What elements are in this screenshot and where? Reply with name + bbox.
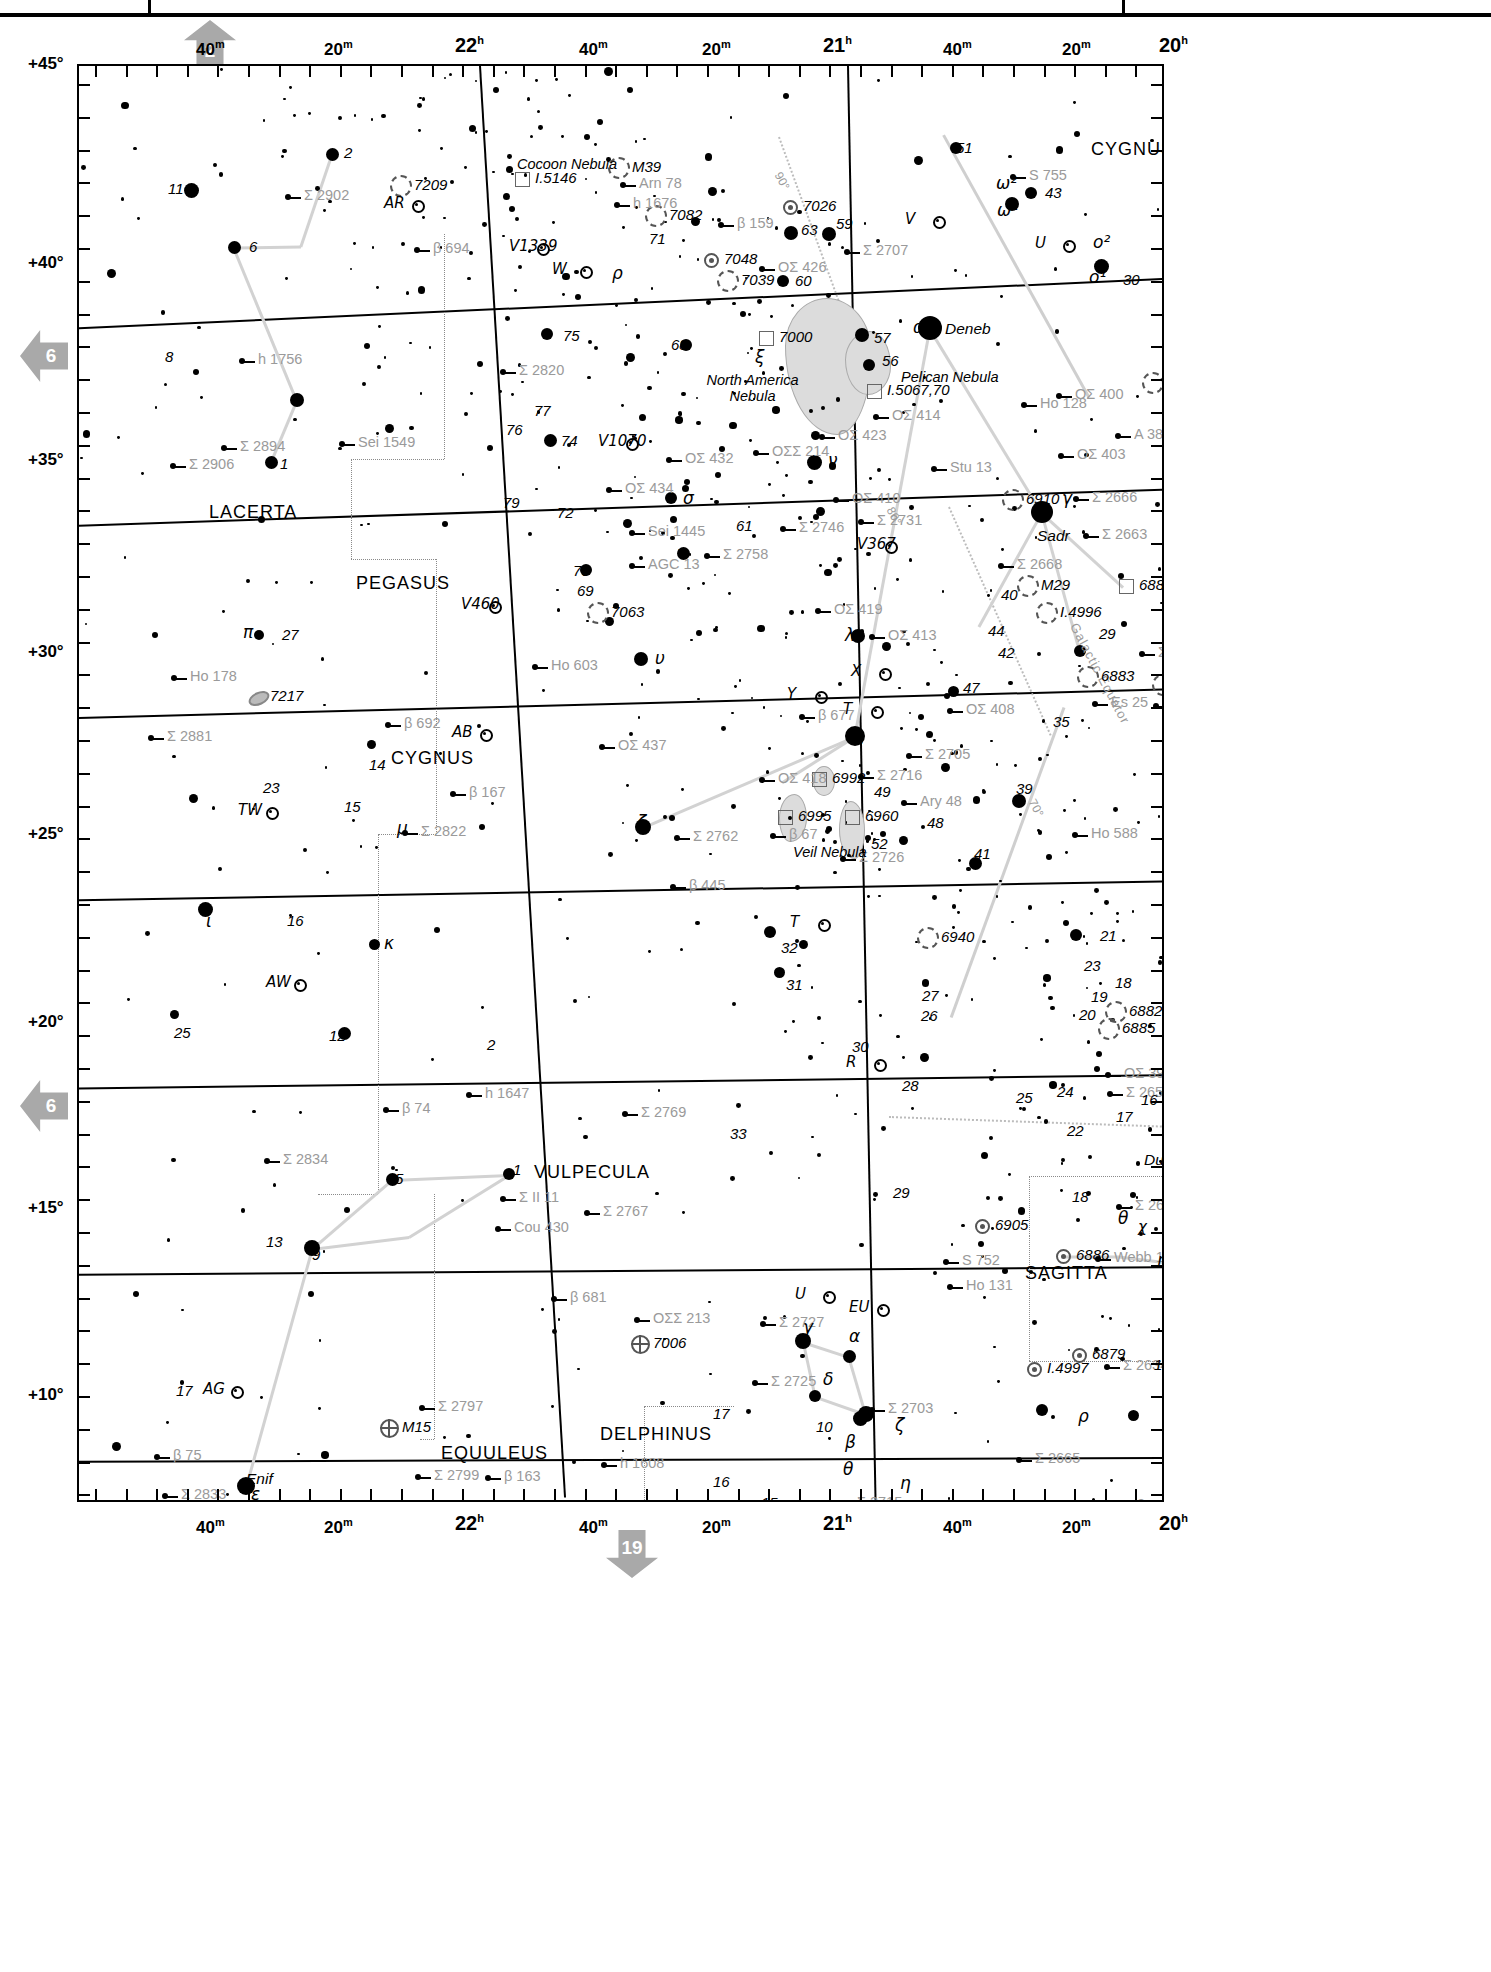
background-star <box>954 269 957 272</box>
background-star <box>318 1407 321 1410</box>
background-star <box>293 114 296 117</box>
dec-tick-left <box>79 379 90 381</box>
background-star <box>621 404 624 407</box>
double-star-label: Ho 603 <box>551 657 598 673</box>
constellation-boundary-segment <box>351 559 436 560</box>
background-star <box>354 114 357 117</box>
flamsteed-label: 71 <box>649 230 666 247</box>
dso-label: M15 <box>402 1418 431 1435</box>
background-star <box>933 1271 937 1275</box>
sky-chart-plot[interactable]: Galactic Equator90°80°70°7209I.5146M3970… <box>77 64 1164 1502</box>
dec-tick-left <box>79 1330 90 1332</box>
flamsteed-label: 40 <box>1001 586 1018 603</box>
background-star <box>748 506 751 509</box>
dso-globular-cross-v <box>388 1419 390 1437</box>
variable-star-symbol <box>874 1059 887 1072</box>
double-star-label: Σ 2665 <box>1035 1450 1080 1466</box>
background-star <box>1155 502 1160 507</box>
variable-star-label: AG <box>203 1380 225 1398</box>
nav-arrow-left-lower[interactable]: 6 <box>20 1080 68 1132</box>
double-star-label: OΣ 410 <box>852 490 900 506</box>
background-star <box>555 78 558 81</box>
nav-arrow-left-upper[interactable]: 6 <box>20 330 68 382</box>
background-star <box>749 439 752 442</box>
double-star-label: h 1647 <box>485 1085 529 1101</box>
bayer-label: ζ <box>895 1415 904 1435</box>
dso-open-cluster <box>587 602 609 624</box>
double-star-bar <box>672 887 686 889</box>
double-star-bar <box>387 725 401 727</box>
background-star <box>326 871 329 874</box>
dec-tick-right <box>1151 1462 1162 1464</box>
dso-open-cluster <box>717 270 739 292</box>
background-star <box>470 392 473 395</box>
dec-tick-right <box>1151 84 1162 86</box>
background-star <box>643 138 646 141</box>
background-star <box>1008 1173 1011 1176</box>
background-star <box>1099 982 1102 985</box>
dec-tick-right <box>1151 182 1162 184</box>
flamsteed-label: 49 <box>874 783 891 800</box>
background-star <box>551 1405 554 1408</box>
double-star-bar <box>875 417 889 419</box>
ra-tick-top <box>370 66 372 77</box>
background-star <box>481 1006 484 1009</box>
bayer-label: λ <box>845 625 855 645</box>
background-star <box>594 509 597 512</box>
variable-star-label: AB <box>452 723 473 741</box>
dec-tick-right <box>1151 248 1162 250</box>
dec-tick-right <box>1151 1429 1162 1431</box>
ra-tick-top <box>1044 66 1046 77</box>
double-star-bar <box>624 1114 638 1116</box>
nav-arrow-down[interactable]: 19 <box>606 1530 658 1578</box>
background-star <box>932 895 937 900</box>
background-star <box>997 1380 1000 1383</box>
ra-hour-label: 21h <box>823 34 852 57</box>
ra-tick-top <box>523 66 525 77</box>
ra-tick-top <box>646 66 648 77</box>
constellation-name-cygnus: CYGNUS <box>391 748 474 769</box>
background-star <box>926 731 934 739</box>
double-star-bar <box>416 250 430 252</box>
dec-tick-right <box>1151 1363 1162 1365</box>
background-star <box>629 732 633 736</box>
background-star <box>624 361 629 366</box>
background-star <box>1040 1038 1043 1041</box>
flamsteed-label: 25 <box>1016 1089 1033 1106</box>
dec-tick-right <box>1151 478 1162 480</box>
bayer-label: γ <box>803 1317 813 1337</box>
double-star-bar <box>835 500 849 502</box>
flamsteed-label: 15 <box>344 798 361 815</box>
variable-star-symbol <box>480 729 493 742</box>
background-star <box>881 1126 886 1131</box>
background-star <box>647 386 652 391</box>
flamsteed-label: 30 <box>1123 271 1140 288</box>
background-star <box>801 752 805 756</box>
background-star <box>568 94 571 97</box>
background-star <box>622 226 625 229</box>
background-star <box>983 1296 986 1299</box>
ra-tick-bottom <box>248 1489 250 1500</box>
flamsteed-label: 43 <box>1045 184 1062 201</box>
double-star-label: Σ 2746 <box>799 519 844 535</box>
background-star <box>461 1199 464 1202</box>
background-star <box>775 226 779 230</box>
background-star <box>1148 1127 1153 1132</box>
constellation-boundary-segment <box>436 559 437 834</box>
dso-label: 6905 <box>995 1216 1028 1233</box>
background-star <box>507 154 512 159</box>
variable-star-symbol <box>815 691 828 704</box>
dec-tick-left <box>79 674 90 676</box>
flamsteed-label: 69 <box>577 582 594 599</box>
background-star <box>218 867 222 871</box>
ra-tick-top <box>248 66 250 77</box>
flamsteed-label: 17 <box>176 1382 193 1399</box>
background-star <box>112 1442 121 1451</box>
background-star <box>538 125 543 130</box>
double-star-label: Σ 2894 <box>240 438 285 454</box>
dso-label: 6883 <box>1101 667 1134 684</box>
double-star-label: OΣ 403 <box>1077 446 1125 462</box>
background-star <box>1063 920 1069 926</box>
background-star <box>712 218 715 221</box>
background-star <box>866 771 870 775</box>
